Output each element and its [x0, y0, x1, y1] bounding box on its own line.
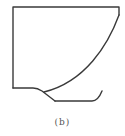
- base-ledge: [13, 88, 55, 101]
- figure-caption: (b): [0, 117, 125, 127]
- base-hook: [55, 91, 102, 101]
- diagram-figure: [0, 0, 125, 136]
- main-curve: [44, 15, 119, 92]
